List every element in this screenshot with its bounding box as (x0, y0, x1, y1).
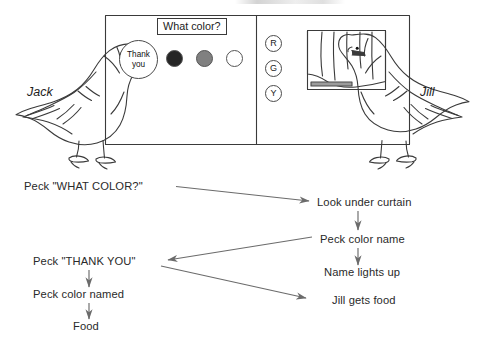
flow-node-name-lights-up: Name lights up (324, 266, 400, 278)
color-key-gray[interactable] (196, 50, 213, 67)
label-jill: Jill (420, 85, 435, 99)
jill-toe (378, 163, 386, 169)
flow-node-food: Food (73, 320, 99, 332)
jack-toe (99, 163, 107, 169)
flow-node-peck-what-color: Peck "WHAT COLOR?" (24, 180, 143, 192)
flow-node-peck-color-named: Peck color named (33, 288, 124, 300)
name-key-r[interactable]: R (265, 35, 282, 52)
label-jack: Jack (27, 85, 53, 99)
figure-canvas: What color? Thank you R G Y Jack Jill Pe… (0, 0, 478, 351)
what-color-key-label: What color? (163, 20, 221, 32)
jack-wing-detail (27, 106, 54, 116)
color-key-dark[interactable] (166, 50, 183, 67)
jill-foot (397, 156, 417, 162)
name-key-y[interactable]: Y (265, 85, 282, 102)
thank-you-key[interactable]: Thank you (119, 40, 158, 79)
arrow-whatcolor-to-lookcurtain (176, 187, 309, 202)
name-key-y-label: Y (270, 88, 276, 98)
arrow-peckcolorname-to-peckthankyou (168, 237, 312, 260)
name-key-g-label: G (270, 63, 277, 73)
flow-node-jill-gets-food: Jill gets food (332, 294, 396, 306)
thank-you-key-line1: Thank (127, 50, 150, 59)
jill-wing-detail (431, 106, 458, 116)
thank-you-key-line2: you (132, 60, 145, 69)
name-key-g[interactable]: G (265, 60, 282, 77)
jack-wing-detail (78, 91, 92, 101)
jack-wing-detail (63, 108, 81, 125)
jill-toe (406, 162, 414, 168)
what-color-key[interactable]: What color? (157, 18, 227, 35)
jack-leg (77, 141, 80, 157)
flow-node-look-under-curtain: Look under curtain (317, 196, 411, 208)
jill-eye (356, 47, 359, 50)
jack-wing-detail (33, 109, 60, 119)
jill-foot (370, 157, 390, 163)
jack-toe (71, 162, 79, 168)
jill-wing-detail (426, 109, 453, 119)
jack-leg (103, 141, 105, 159)
jack-wing-detail (86, 87, 100, 97)
jack-foot (69, 156, 89, 162)
color-key-white[interactable] (226, 50, 243, 67)
flow-node-peck-color-name: Peck color name (320, 233, 405, 245)
flow-node-peck-thank-you: Peck "THANK YOU" (33, 255, 136, 267)
name-key-r-label: R (270, 38, 277, 48)
food-shelf (311, 82, 352, 86)
arrow-peckthankyou-to-jillgetsfood (161, 266, 306, 298)
jack-foot (96, 157, 116, 163)
